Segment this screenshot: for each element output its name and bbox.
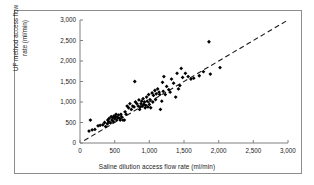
data-point bbox=[208, 72, 212, 76]
plot-canvas bbox=[0, 0, 314, 185]
data-point bbox=[202, 70, 206, 74]
x-tick-label-0: 0 bbox=[67, 147, 93, 154]
data-point bbox=[181, 76, 185, 80]
line-of-identity bbox=[84, 20, 288, 141]
y-tick-label-500: 500 bbox=[50, 119, 76, 126]
data-point bbox=[175, 71, 179, 75]
y-axis-title-line-2: rate (ml/min) bbox=[21, 0, 30, 100]
data-point bbox=[93, 128, 97, 132]
data-point bbox=[149, 106, 153, 110]
x-tick-label-500: 500 bbox=[102, 147, 128, 154]
data-point bbox=[89, 118, 93, 122]
x-tick-label-2,000: 2,000 bbox=[206, 147, 232, 154]
data-point bbox=[133, 80, 137, 84]
y-tick-label-1,500: 1,500 bbox=[50, 78, 76, 85]
x-axis-title: Saline dilution access flow rate (ml/min… bbox=[0, 163, 314, 170]
y-axis-title: UF method access flow rate (ml/min) bbox=[12, 0, 32, 100]
data-point bbox=[161, 80, 165, 84]
x-tick-label-1,500: 1,500 bbox=[171, 147, 197, 154]
data-point bbox=[197, 74, 201, 78]
figure-scatter-plot: 05001,0001,5002,0002,5003,000 05001,0001… bbox=[0, 0, 314, 185]
y-tick-label-1,000: 1,000 bbox=[50, 98, 76, 105]
data-point bbox=[186, 75, 190, 79]
y-axis-title-line-1: UF method access flow bbox=[12, 0, 21, 100]
y-tick-label-2,500: 2,500 bbox=[50, 37, 76, 44]
data-point bbox=[162, 75, 166, 79]
data-point bbox=[104, 125, 108, 129]
y-tick-label-2,000: 2,000 bbox=[50, 57, 76, 64]
data-point bbox=[174, 95, 178, 99]
data-point bbox=[218, 66, 222, 70]
data-point bbox=[183, 71, 187, 75]
data-point bbox=[128, 102, 132, 106]
data-point bbox=[172, 81, 176, 85]
data-point bbox=[154, 98, 158, 102]
y-tick-label-3,000: 3,000 bbox=[50, 16, 76, 23]
data-point bbox=[189, 77, 193, 81]
data-point bbox=[207, 40, 211, 44]
y-tick-label-0: 0 bbox=[50, 139, 76, 146]
data-points-group bbox=[87, 40, 222, 133]
x-tick-label-3,000: 3,000 bbox=[275, 147, 301, 154]
x-tick-label-1,000: 1,000 bbox=[136, 147, 162, 154]
data-point bbox=[177, 87, 181, 91]
x-tick-label-2,500: 2,500 bbox=[240, 147, 266, 154]
data-point bbox=[165, 85, 169, 89]
data-point bbox=[179, 66, 183, 70]
data-point bbox=[160, 99, 164, 103]
data-point bbox=[159, 107, 163, 111]
data-point bbox=[170, 77, 174, 81]
